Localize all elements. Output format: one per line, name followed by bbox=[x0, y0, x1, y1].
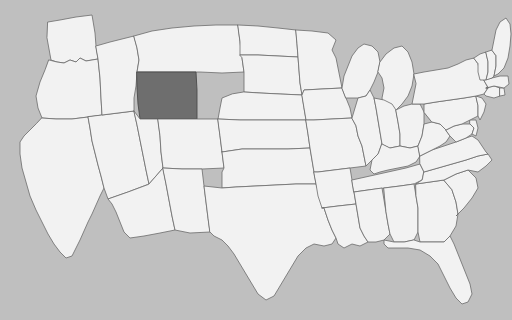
state-OK[interactable]: Oklahoma bbox=[222, 148, 316, 188]
state-SD[interactable]: South Dakota bbox=[240, 55, 302, 95]
map-canvas: Washington Oregon California Nevada Idah… bbox=[0, 0, 512, 320]
state-WY[interactable]: Wyoming bbox=[137, 72, 197, 119]
us-state-map: Washington Oregon California Nevada Idah… bbox=[0, 0, 512, 320]
state-OR[interactable]: Oregon bbox=[36, 58, 102, 119]
state-AR[interactable]: Arkansas bbox=[314, 168, 356, 208]
state-ND[interactable]: North Dakota bbox=[238, 25, 298, 57]
state-MT[interactable]: Montana bbox=[134, 25, 244, 73]
state-KS[interactable]: Kansas bbox=[218, 119, 310, 152]
state-MN[interactable]: Minnesota bbox=[296, 30, 342, 95]
state-RI[interactable]: Rhode Island bbox=[500, 88, 505, 96]
state-ID[interactable]: Idaho bbox=[96, 36, 139, 115]
state-CO[interactable]: Colorado bbox=[158, 119, 224, 169]
state-WA[interactable]: Washington bbox=[47, 15, 98, 63]
state-NE[interactable]: Nebraska bbox=[218, 92, 306, 120]
